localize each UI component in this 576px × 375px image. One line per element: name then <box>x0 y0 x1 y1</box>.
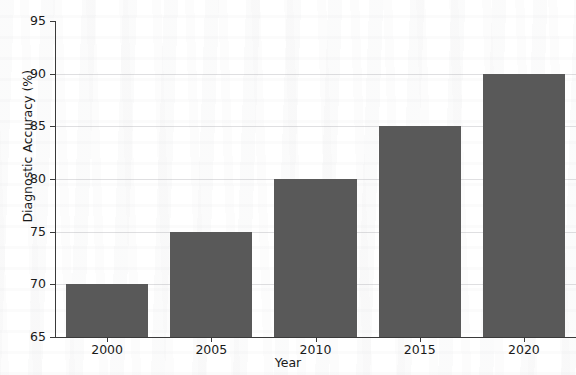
y-tick-label: 95 <box>6 15 46 28</box>
x-tick-label: 2020 <box>484 344 564 357</box>
y-tick-mark <box>50 74 55 75</box>
y-tick-mark <box>50 21 55 22</box>
bar-chart-figure: 65707580859095 20002005201020152020 Diag… <box>0 0 576 375</box>
x-tick-label: 2000 <box>67 344 147 357</box>
y-axis-title: Diagnostic Accuracy (%) <box>22 46 35 246</box>
bar <box>274 179 356 337</box>
y-tick-mark <box>50 126 55 127</box>
y-tick-mark <box>50 284 55 285</box>
bar <box>379 126 461 337</box>
y-tick-mark <box>50 337 55 338</box>
x-tick-label: 2015 <box>380 344 460 357</box>
bar <box>66 284 148 337</box>
x-axis-title: Year <box>0 357 576 370</box>
y-tick-label: 70 <box>6 278 46 291</box>
y-tick-label: 65 <box>6 331 46 344</box>
y-tick-mark <box>50 179 55 180</box>
bar <box>483 74 565 337</box>
x-tick-label: 2005 <box>171 344 251 357</box>
bar <box>170 232 252 337</box>
y-axis-spine <box>55 21 56 338</box>
plot-area <box>55 21 576 337</box>
y-tick-mark <box>50 232 55 233</box>
